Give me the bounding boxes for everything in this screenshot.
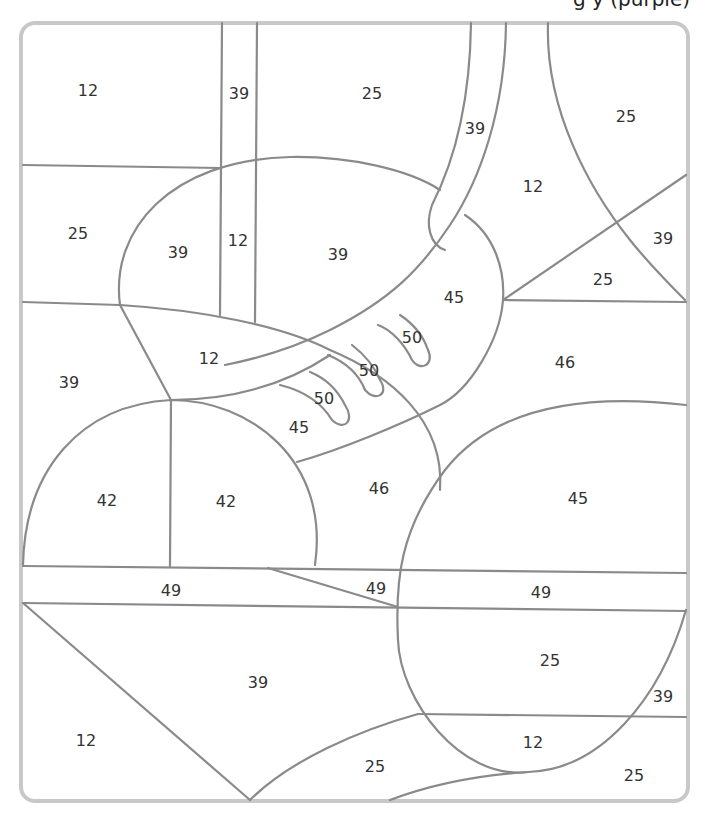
region-number[interactable]: 12 bbox=[78, 81, 98, 100]
region-number[interactable]: 45 bbox=[289, 418, 309, 437]
region-number[interactable]: 49 bbox=[366, 579, 386, 598]
region-number[interactable]: 25 bbox=[624, 766, 644, 785]
region-number[interactable]: 25 bbox=[362, 84, 382, 103]
region-number[interactable]: 50 bbox=[402, 328, 422, 347]
region-number[interactable]: 39 bbox=[168, 243, 188, 262]
region-number[interactable]: 12 bbox=[228, 231, 248, 250]
region-number[interactable]: 39 bbox=[229, 84, 249, 103]
color-by-number-sheet bbox=[0, 0, 708, 825]
region-number[interactable]: 12 bbox=[76, 731, 96, 750]
region-number[interactable]: 45 bbox=[568, 489, 588, 508]
region-number[interactable]: 25 bbox=[616, 107, 636, 126]
region-number[interactable]: 49 bbox=[531, 583, 551, 602]
region-number[interactable]: 39 bbox=[465, 119, 485, 138]
region-number[interactable]: 25 bbox=[68, 224, 88, 243]
region-number[interactable]: 39 bbox=[248, 673, 268, 692]
sheet-border bbox=[21, 23, 688, 801]
region-number[interactable]: 12 bbox=[523, 177, 543, 196]
region-number[interactable]: 12 bbox=[523, 733, 543, 752]
region-number[interactable]: 50 bbox=[314, 389, 334, 408]
region-number[interactable]: 25 bbox=[365, 757, 385, 776]
region-number[interactable]: 46 bbox=[555, 353, 575, 372]
region-number[interactable]: 46 bbox=[369, 479, 389, 498]
region-number[interactable]: 39 bbox=[59, 373, 79, 392]
region-number[interactable]: 39 bbox=[328, 245, 348, 264]
region-number[interactable]: 45 bbox=[444, 288, 464, 307]
region-number[interactable]: 25 bbox=[593, 270, 613, 289]
region-number[interactable]: 25 bbox=[540, 651, 560, 670]
region-number[interactable]: 50 bbox=[359, 361, 379, 380]
region-number[interactable]: 49 bbox=[161, 581, 181, 600]
region-number[interactable]: 42 bbox=[216, 492, 236, 511]
region-number[interactable]: 12 bbox=[199, 349, 219, 368]
region-number[interactable]: 39 bbox=[653, 229, 673, 248]
region-number[interactable]: 39 bbox=[653, 687, 673, 706]
region-number[interactable]: 42 bbox=[97, 491, 117, 510]
